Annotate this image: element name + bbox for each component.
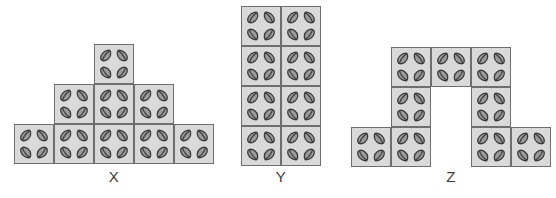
leaf-icon <box>493 109 506 122</box>
tile[interactable] <box>14 124 54 164</box>
leaf-icon <box>356 132 369 145</box>
leaf-icon <box>99 146 112 159</box>
leaf-icon <box>263 91 276 104</box>
leaf-icon <box>476 69 489 82</box>
leaf-icon <box>476 52 489 65</box>
tile[interactable] <box>281 86 321 126</box>
tile[interactable] <box>391 127 431 167</box>
leaf-icon <box>139 89 152 102</box>
figure-y <box>241 6 321 166</box>
leaf-icon <box>493 52 506 65</box>
tile[interactable] <box>134 84 174 124</box>
leaf-icon <box>246 28 259 41</box>
leaf-icon <box>286 68 299 81</box>
leaf-icon <box>286 91 299 104</box>
tile[interactable] <box>391 87 431 127</box>
tile[interactable] <box>471 87 511 127</box>
leaf-icon <box>303 148 316 161</box>
tile-grid <box>14 44 214 164</box>
tile-grid <box>241 6 321 166</box>
leaf-icon <box>19 146 32 159</box>
leaf-icon <box>99 129 112 142</box>
figure-label-x: X <box>14 168 214 185</box>
leaf-icon <box>286 148 299 161</box>
leaf-icon <box>533 149 546 162</box>
leaf-icon <box>116 49 129 62</box>
leaf-icon <box>59 129 72 142</box>
leaf-icon <box>373 149 386 162</box>
leaf-icon <box>263 131 276 144</box>
tile[interactable] <box>241 46 281 86</box>
leaf-icon <box>196 129 209 142</box>
leaf-icon <box>356 149 369 162</box>
tile[interactable] <box>134 124 174 164</box>
tile[interactable] <box>94 44 134 84</box>
leaf-icon <box>476 132 489 145</box>
leaf-icon <box>76 106 89 119</box>
tile[interactable] <box>391 47 431 87</box>
leaf-icon <box>263 11 276 24</box>
leaf-icon <box>396 52 409 65</box>
tile[interactable] <box>174 124 214 164</box>
leaf-icon <box>263 28 276 41</box>
leaf-icon <box>246 131 259 144</box>
leaf-icon <box>303 131 316 144</box>
tile[interactable] <box>241 6 281 46</box>
leaf-icon <box>116 66 129 79</box>
leaf-icon <box>156 106 169 119</box>
leaf-icon <box>303 11 316 24</box>
leaf-icon <box>286 51 299 64</box>
leaf-icon <box>156 89 169 102</box>
tile[interactable] <box>54 124 94 164</box>
leaf-icon <box>246 108 259 121</box>
tile[interactable] <box>281 126 321 166</box>
leaf-icon <box>413 132 426 145</box>
leaf-icon <box>413 149 426 162</box>
leaf-icon <box>396 92 409 105</box>
tile[interactable] <box>511 127 551 167</box>
leaf-icon <box>156 129 169 142</box>
leaf-icon <box>303 51 316 64</box>
leaf-icon <box>413 52 426 65</box>
leaf-icon <box>156 146 169 159</box>
leaf-icon <box>286 108 299 121</box>
leaf-icon <box>139 106 152 119</box>
leaf-icon <box>263 108 276 121</box>
tile[interactable] <box>471 127 511 167</box>
leaf-icon <box>116 146 129 159</box>
tile[interactable] <box>241 86 281 126</box>
figure-z <box>351 47 551 167</box>
tile[interactable] <box>281 6 321 46</box>
leaf-icon <box>286 131 299 144</box>
tile[interactable] <box>94 84 134 124</box>
leaf-icon <box>263 68 276 81</box>
leaf-icon <box>286 28 299 41</box>
tile[interactable] <box>471 47 511 87</box>
tile[interactable] <box>431 47 471 87</box>
leaf-icon <box>476 149 489 162</box>
leaf-icon <box>396 109 409 122</box>
leaf-icon <box>436 52 449 65</box>
figure-label-y: Y <box>241 168 321 185</box>
leaf-icon <box>116 129 129 142</box>
leaf-icon <box>453 69 466 82</box>
tile[interactable] <box>281 46 321 86</box>
leaf-icon <box>413 109 426 122</box>
tile[interactable] <box>241 126 281 166</box>
leaf-icon <box>303 68 316 81</box>
leaf-icon <box>246 51 259 64</box>
tile[interactable] <box>94 124 134 164</box>
leaf-icon <box>36 129 49 142</box>
figure-label-z: Z <box>351 168 551 185</box>
tile[interactable] <box>351 127 391 167</box>
leaf-icon <box>179 129 192 142</box>
leaf-icon <box>76 146 89 159</box>
tile[interactable] <box>54 84 94 124</box>
leaf-icon <box>59 89 72 102</box>
leaf-icon <box>99 106 112 119</box>
leaf-icon <box>493 132 506 145</box>
leaf-icon <box>263 51 276 64</box>
leaf-icon <box>493 149 506 162</box>
leaf-icon <box>59 146 72 159</box>
leaf-icon <box>476 92 489 105</box>
